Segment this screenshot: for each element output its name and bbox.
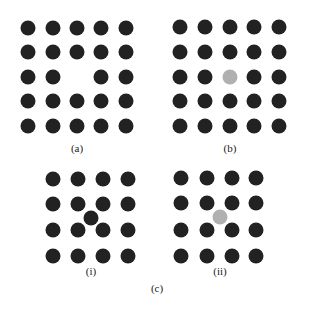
atom: [249, 196, 264, 211]
atom: [71, 223, 86, 238]
atom: [71, 249, 86, 264]
atom: [200, 171, 215, 186]
atom: [46, 249, 61, 264]
atom: [223, 45, 238, 60]
atom: [94, 21, 109, 36]
atom: [46, 70, 61, 85]
atom: [247, 94, 262, 109]
atom: [247, 20, 262, 35]
atom: [174, 196, 189, 211]
atom: [21, 70, 36, 85]
atom: [94, 45, 109, 60]
atom: [225, 196, 240, 211]
atom: [174, 249, 189, 264]
atom: [84, 211, 99, 226]
atom: [173, 70, 188, 85]
label-b: (b): [224, 142, 237, 154]
atom: [21, 21, 36, 36]
atom: [70, 119, 85, 134]
atom: [225, 223, 240, 238]
atom: [225, 249, 240, 264]
atom: [198, 94, 213, 109]
atom: [121, 172, 136, 187]
atom: [173, 20, 188, 35]
label-c-ii: (ii): [213, 265, 226, 277]
label-c-i: (i): [86, 265, 96, 277]
atom: [119, 45, 134, 60]
atom: [70, 45, 85, 60]
atom: [46, 45, 61, 60]
atom: [272, 94, 287, 109]
atom: [223, 119, 238, 134]
atom: [119, 119, 134, 134]
atom: [200, 196, 215, 211]
atom: [96, 249, 111, 264]
atom: [21, 94, 36, 109]
vacancy-atom: [223, 70, 238, 85]
label-a: (a): [71, 142, 83, 154]
atom: [247, 45, 262, 60]
atom: [272, 45, 287, 60]
atom: [198, 20, 213, 35]
atom: [96, 172, 111, 187]
vacancy-atom: [213, 210, 228, 225]
atom: [200, 223, 215, 238]
atom: [247, 119, 262, 134]
atom: [46, 223, 61, 238]
atom: [173, 45, 188, 60]
label-c: (c): [151, 282, 163, 294]
atom: [173, 94, 188, 109]
atom: [96, 197, 111, 212]
atom: [247, 70, 262, 85]
atom: [272, 70, 287, 85]
atom: [174, 223, 189, 238]
atom: [249, 171, 264, 186]
atom: [21, 45, 36, 60]
atom: [70, 94, 85, 109]
atom: [71, 172, 86, 187]
atom: [121, 197, 136, 212]
atom: [21, 119, 36, 134]
atom: [70, 21, 85, 36]
atom: [119, 21, 134, 36]
atom: [46, 119, 61, 134]
atom: [121, 223, 136, 238]
atom: [223, 20, 238, 35]
atom: [71, 197, 86, 212]
atom: [94, 119, 109, 134]
atom: [225, 171, 240, 186]
atom: [96, 223, 111, 238]
atom: [94, 70, 109, 85]
atom: [94, 94, 109, 109]
atom: [121, 249, 136, 264]
atom: [272, 119, 287, 134]
atom: [200, 249, 215, 264]
atom: [198, 70, 213, 85]
atom: [46, 94, 61, 109]
atom: [272, 20, 287, 35]
atom: [46, 197, 61, 212]
atom: [174, 171, 189, 186]
atom: [198, 119, 213, 134]
atom: [119, 70, 134, 85]
atom: [249, 249, 264, 264]
atom: [119, 94, 134, 109]
atom: [173, 119, 188, 134]
atom: [46, 21, 61, 36]
atom: [46, 172, 61, 187]
atom: [249, 223, 264, 238]
atom: [223, 94, 238, 109]
atom: [198, 45, 213, 60]
